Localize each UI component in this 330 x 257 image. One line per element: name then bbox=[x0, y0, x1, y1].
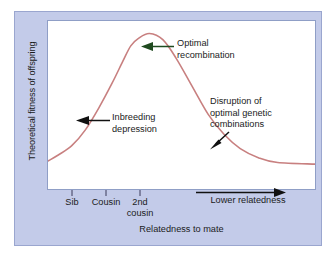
lower-relatedness-label: Lower relatedness bbox=[196, 195, 300, 205]
annotation-disruption-line2: optimal genetic bbox=[210, 108, 272, 120]
annotation-disruption: Disruption of optimal genetic combinatio… bbox=[210, 96, 272, 131]
chart-figure: Theoretical fitness of offspring Sib Cou… bbox=[0, 0, 330, 257]
x-tick-label-2nd: 2nd bbox=[122, 197, 158, 207]
x-tick-label-cousin2: cousin bbox=[122, 208, 158, 218]
annotation-disruption-line1: Disruption of bbox=[210, 96, 272, 108]
annotation-optimal-line2: recombination bbox=[177, 50, 235, 62]
annotation-optimal-line1: Optimal bbox=[177, 38, 235, 50]
annotation-inbreeding-line1: Inbreeding bbox=[112, 112, 157, 124]
annotation-optimal-recombination: Optimal recombination bbox=[177, 38, 235, 61]
annotation-inbreeding-line2: depression bbox=[112, 124, 157, 136]
annotation-disruption-line3: combinations bbox=[210, 119, 272, 131]
y-axis-title: Theoretical fitness of offspring bbox=[27, 21, 37, 181]
annotation-inbreeding-depression: Inbreeding depression bbox=[112, 112, 157, 135]
x-axis-title: Relatedness to mate bbox=[47, 224, 316, 234]
